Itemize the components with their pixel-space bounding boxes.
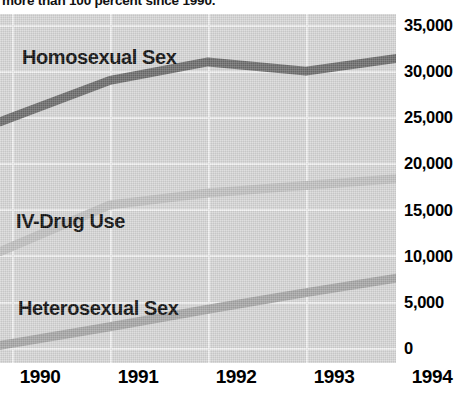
- x-tick-label-1990: 1990: [20, 366, 61, 388]
- y-tick-label-5000: 5,000: [404, 292, 444, 311]
- x-tick-label-1994: 1994: [412, 366, 453, 388]
- series-label-homosexual-sex: Homosexual Sex: [22, 46, 176, 69]
- y-tick-label-20000: 20,000: [404, 154, 453, 173]
- y-tick-label-10000: 10,000: [404, 246, 453, 265]
- y-tick-label-35000: 35,000: [404, 16, 453, 35]
- y-tick-label-30000: 30,000: [404, 62, 453, 81]
- x-tick-label-1993: 1993: [314, 366, 355, 388]
- y-tick-label-25000: 25,000: [404, 108, 453, 127]
- chart-plot-area: Homosexual Sex IV-Drug Use Heterosexual …: [0, 14, 396, 363]
- caption-strip: more than 100 percent since 1990.: [0, 0, 466, 13]
- x-axis: 19901991199219931994: [0, 366, 410, 396]
- series-label-iv-drug-use: IV-Drug Use: [16, 210, 125, 233]
- y-tick-label-0: 0: [404, 339, 413, 358]
- caption-text: more than 100 percent since 1990.: [2, 0, 215, 8]
- y-axis: 05,00010,00015,00020,00025,00030,00035,0…: [398, 0, 466, 402]
- x-tick-label-1992: 1992: [216, 366, 257, 388]
- series-label-heterosexual-sex: Heterosexual Sex: [18, 297, 178, 320]
- x-tick-label-1991: 1991: [118, 366, 159, 388]
- y-tick-label-15000: 15,000: [404, 200, 453, 219]
